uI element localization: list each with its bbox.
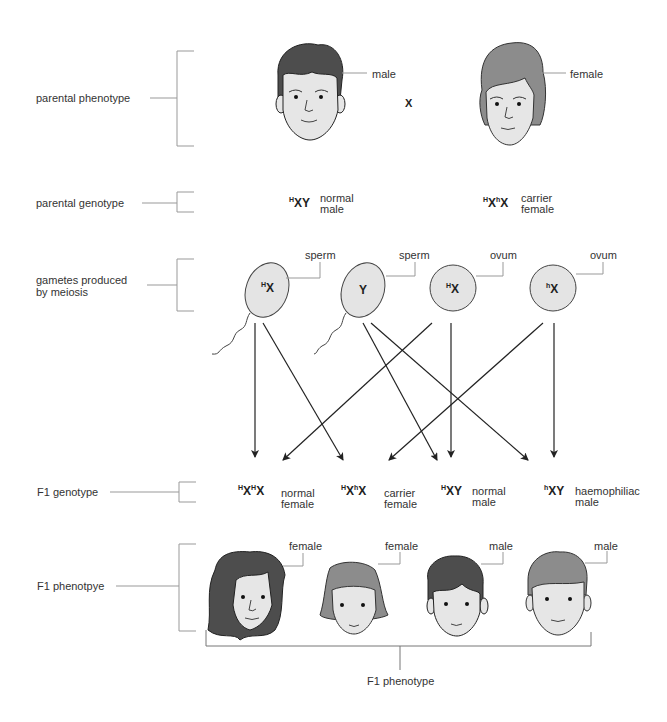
f1-desc-2: carrier female [384,488,417,510]
bracket-parental-phenotype [150,51,194,146]
parent-male-genotype-desc: normal male [320,193,354,215]
bracket-f1-genotype [110,482,196,502]
f1-desc-4: haemophiliac male [575,486,640,508]
gamete-genotype-1: HX [261,281,274,295]
cross-symbol: X [405,97,412,109]
bracket-f1-phenotype-bottom [206,630,591,670]
bracket-f1-phenotype [116,544,196,631]
parent-female-label: female [570,68,603,80]
parent-female-genotype-desc: carrier female [521,193,554,215]
parent-male-label: male [372,68,396,80]
f1-desc-3: normal male [472,486,506,508]
gamete-genotype-3: HX [446,282,459,296]
gamete-label-sperm-1: sperm [305,249,336,261]
gamete-ovum-HX [430,262,503,311]
row-label-f1-genotype: F1 genotype [37,486,98,498]
f1-genotype-4: hXY [544,484,564,498]
gamete-genotype-4: hX [546,282,558,296]
gamete-label-sperm-2: sperm [399,249,430,261]
gamete-label-ovum-1: ovum [490,249,517,261]
row-label-parental-genotype: parental genotype [36,197,124,209]
gamete-sperm-Y [314,257,415,354]
inheritance-arrows [255,323,554,460]
gamete-genotype-2: Y [359,283,367,297]
f1-genotype-2: HXhX [341,484,366,498]
f1-sex-label-1: female [289,540,322,552]
f1-sex-label-3: male [489,540,513,552]
bottom-label-f1-phenotype: F1 phenotype [367,675,434,687]
parent-female-genotype: HXhX [483,196,508,210]
f1-genotype-3: HXY [441,484,462,498]
f1-desc-1: normal female [281,488,315,510]
bracket-parental-genotype [142,192,194,212]
bracket-gametes [147,259,194,311]
gamete-sperm-HX [212,257,320,355]
parent-male-face [276,44,345,140]
f1-face-normal-male [427,556,488,636]
row-label-f1-phenotype: F1 phenotpye [37,580,104,592]
row-label-gametes: gametes produced by meiosis [36,274,127,298]
row-label-parental-phenotype: parental phenotype [36,92,130,104]
f1-face-carrier-female [320,562,388,634]
f1-genotype-1: HXHX [238,484,264,498]
f1-face-haemophiliac-male [526,552,591,635]
diagram-graphics [0,0,667,722]
gamete-ovum-hX [530,262,603,311]
gamete-label-ovum-2: ovum [590,249,617,261]
f1-sex-label-4: male [594,540,618,552]
f1-face-normal-female [208,552,285,640]
f1-sex-label-2: female [385,540,418,552]
parent-female-face [480,43,546,145]
parent-male-genotype: HXY [289,196,310,210]
